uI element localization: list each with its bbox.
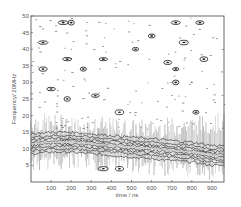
y-tick-label: 5 bbox=[26, 162, 30, 168]
plot-area bbox=[31, 18, 225, 180]
y-tick-label: 35 bbox=[22, 63, 29, 69]
y-tick-label: 30 bbox=[22, 79, 29, 85]
x-tick-label: 600 bbox=[147, 185, 158, 191]
x-tick-label: 900 bbox=[207, 185, 218, 191]
x-tick-label: 800 bbox=[187, 185, 198, 191]
time-frequency-chart: 5101520253035404550 10020030040050060070… bbox=[0, 0, 241, 207]
x-tick-label: 400 bbox=[106, 185, 117, 191]
y-tick-label: 40 bbox=[22, 46, 29, 52]
x-tick-label: 200 bbox=[66, 185, 77, 191]
x-tick-label: 100 bbox=[46, 185, 57, 191]
x-tick-label: 700 bbox=[167, 185, 178, 191]
y-tick-label: 25 bbox=[22, 96, 29, 102]
x-axis-label: time / ns bbox=[116, 192, 139, 198]
x-tick-label: 500 bbox=[127, 185, 138, 191]
y-tick-label: 45 bbox=[22, 30, 29, 36]
y-axis-label: Frequency/ 20MHz bbox=[11, 74, 17, 125]
y-tick-label: 50 bbox=[22, 13, 29, 19]
y-tick-label: 15 bbox=[22, 129, 29, 135]
y-tick-label: 20 bbox=[22, 113, 29, 119]
y-tick-label: 10 bbox=[22, 146, 29, 152]
x-tick-label: 300 bbox=[86, 185, 97, 191]
